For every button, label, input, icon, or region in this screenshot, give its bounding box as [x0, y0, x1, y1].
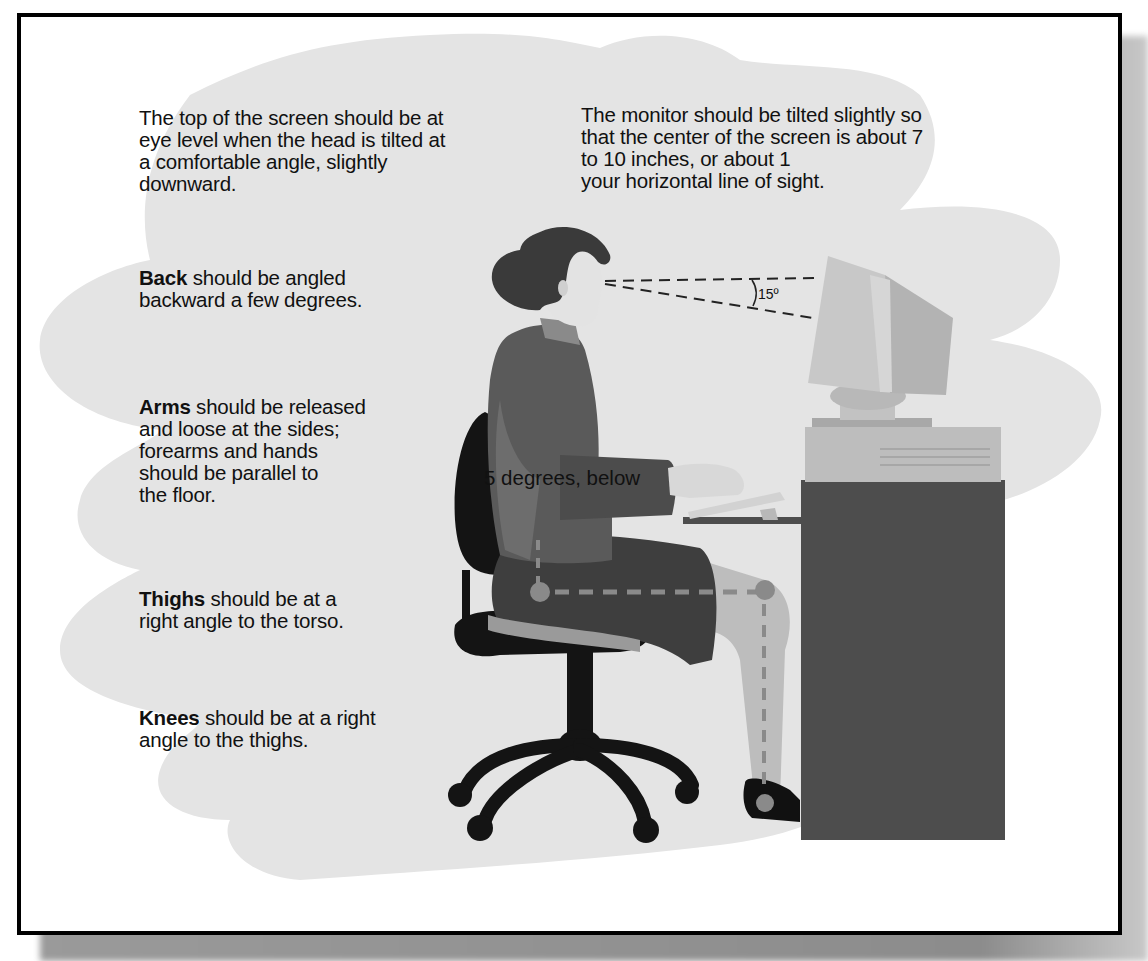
caption-thighs-term: Thighs: [139, 587, 205, 610]
caption-arms: Arms should be released and loose at the…: [139, 396, 366, 506]
caption-arms-term: Arms: [139, 395, 191, 418]
sight-angle-label: 15º: [758, 286, 779, 302]
caption-thighs: Thighs should be at a right angle to the…: [139, 588, 344, 632]
caption-knees: Knees should be at a right angle to the …: [139, 707, 375, 751]
ankle-joint-marker: [756, 794, 774, 812]
caption-monitor-tilt: The monitor should be tilted slightly so…: [581, 104, 923, 192]
caption-screen-top: The top of the screen should be at eye l…: [139, 107, 445, 195]
knee-joint-marker: [755, 580, 775, 600]
overlapping-caption-fragment: 5 degrees, below: [484, 466, 640, 490]
caption-back: Back should be angled backward a few deg…: [139, 267, 362, 311]
caption-knees-term: Knees: [139, 706, 200, 729]
caption-back-term: Back: [139, 266, 187, 289]
hip-joint-marker: [530, 582, 550, 602]
